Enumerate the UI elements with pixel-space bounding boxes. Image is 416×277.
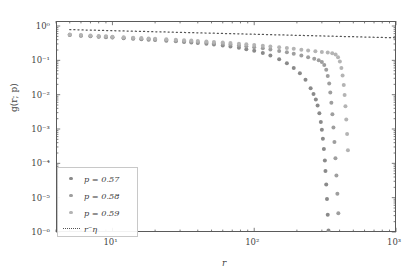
legend-label: r⁻η	[84, 224, 97, 234]
x-tick-label: 10¹	[103, 237, 117, 247]
legend-item-p058[interactable]: p = 0.58	[58, 187, 139, 204]
legend-label: p = 0.57	[84, 174, 120, 184]
legend-marker-dot	[58, 211, 84, 214]
y-tick-label: 10⁻¹	[24, 55, 50, 65]
legend-label: p = 0.58	[84, 191, 120, 201]
legend-marker-dotted-line	[58, 228, 84, 229]
legend-label: p = 0.59	[84, 208, 120, 218]
legend-item-reference-line[interactable]: r⁻η	[58, 220, 139, 237]
x-tick-label: 10²	[245, 237, 259, 247]
legend: p = 0.57 p = 0.58 p = 0.59 r⁻η	[57, 167, 138, 237]
y-tick-label: 10⁻⁵	[24, 193, 50, 203]
y-tick-label: 10⁻⁶	[24, 227, 50, 237]
y-tick-label: 10⁰	[24, 21, 50, 31]
y-tick-label: 10⁻²	[24, 90, 50, 100]
legend-item-p059[interactable]: p = 0.59	[58, 204, 139, 221]
legend-item-p057[interactable]: p = 0.57	[58, 170, 139, 187]
series-p-0-59	[68, 32, 350, 152]
x-axis-title: r	[222, 258, 226, 268]
legend-marker-dot	[58, 177, 84, 180]
y-tick-label: 10⁻⁴	[24, 158, 50, 168]
x-axis-title-text: r	[222, 258, 226, 268]
y-tick-label: 10⁻³	[24, 124, 50, 134]
figure: g(r; p) r p = 0.57 p = 0.58 p = 0.59 r⁻η…	[0, 0, 416, 277]
y-axis-title-text: g(r; p)	[9, 83, 19, 112]
x-tick-label: 10³	[387, 237, 401, 247]
y-axis-title: g(r; p)	[9, 83, 19, 112]
legend-marker-dot	[58, 194, 84, 197]
